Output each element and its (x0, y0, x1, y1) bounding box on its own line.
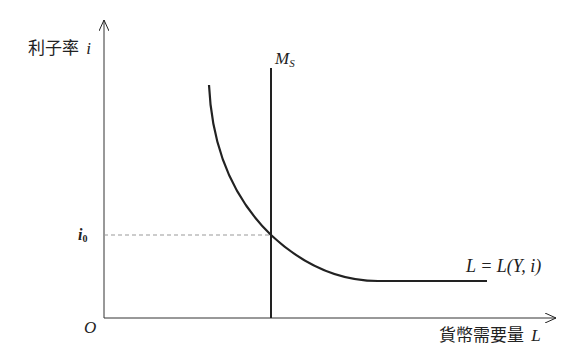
demand-curve-label: L = L(Y, i) (465, 256, 541, 277)
equilibrium-rate-label: i0 (78, 226, 87, 244)
origin-label: O (84, 318, 96, 337)
money-demand-curve (209, 85, 487, 281)
money-supply-label: MS (274, 49, 295, 69)
money-market-diagram: 利子率 i MS i0 L = L(Y, i) O 貨幣需要量 L (0, 0, 575, 362)
x-axis-label: 貨幣需要量 L (439, 326, 541, 345)
y-axis-label: 利子率 i (28, 39, 91, 58)
